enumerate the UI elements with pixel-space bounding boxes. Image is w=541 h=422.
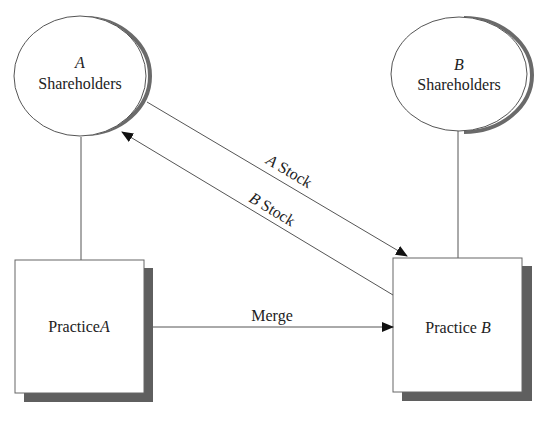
- b-stock-edge: B Stock: [122, 132, 393, 295]
- shareholders-b-label: Shareholders: [417, 76, 501, 93]
- merge-label: Merge: [251, 307, 292, 325]
- practice-b-label: Practice B: [425, 319, 491, 336]
- shareholders-a-label: Shareholders: [38, 75, 122, 92]
- practice-a-node: PracticeA: [15, 260, 153, 402]
- practice-a-label: PracticeA: [48, 318, 110, 335]
- shareholders-b-letter: B: [454, 56, 464, 73]
- merge-edge: Merge: [153, 307, 393, 327]
- shareholders-a-node: A Shareholders: [14, 16, 150, 136]
- practice-b-node: Practice B: [393, 258, 532, 401]
- shareholders-a-letter: A: [74, 54, 85, 71]
- shareholders-b-node: B Shareholders: [391, 17, 532, 132]
- a-stock-edge: A Stock: [147, 102, 407, 256]
- a-stock-label: A Stock: [263, 150, 316, 191]
- b-stock-label: B Stock: [246, 189, 298, 229]
- diagram-canvas: A Shareholders B Shareholders PracticeA …: [0, 0, 541, 422]
